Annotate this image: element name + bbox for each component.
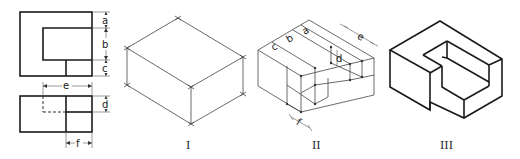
iso-dim-b: b [284,32,295,45]
dim-label-d: d [102,99,108,110]
isometric-box-i: I [124,16,246,152]
iso-dim-f: f [294,116,303,128]
step-label-iii: III [440,139,453,152]
step-label-i: I [186,139,190,152]
dim-label-c: c [102,63,108,74]
top-view-dimension-labels: e d f [62,80,111,149]
dim-label-b: b [102,39,108,50]
front-view [20,12,110,76]
dim-label-a: a [102,15,108,26]
front-view-dimension-labels: a b c [101,15,111,74]
iso-dim-d: d [336,53,342,64]
top-view [20,82,110,148]
iso-dim-e: e [355,30,366,43]
iso-dim-c: c [269,40,279,52]
dim-label-f: f [76,138,80,149]
isometric-ii-dimension-labels: c b a e d f [269,24,366,128]
isometric-finished-iii: III [390,21,502,152]
drawing-canvas: a b c e d f [0,0,520,159]
dim-label-e: e [63,80,69,91]
step-label-ii: II [312,139,321,152]
